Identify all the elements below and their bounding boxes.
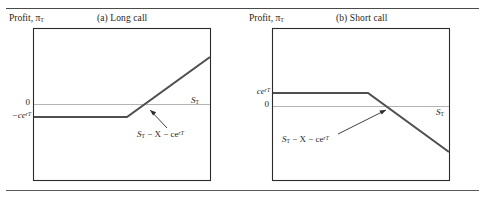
chart-svg-a bbox=[0, 0, 243, 202]
tick-zero-b: 0 bbox=[243, 99, 269, 109]
tick-intercept-b-text: ce bbox=[257, 86, 265, 96]
plot-box-b bbox=[273, 29, 450, 181]
figure-container: Profit, πT (a) Long call 0 −cerT ST ST −… bbox=[0, 0, 485, 202]
payoff-line-a bbox=[34, 57, 210, 117]
annotation-leader-b bbox=[338, 110, 386, 134]
annotation-a-sup: rT bbox=[179, 130, 184, 136]
tick-zero-a: 0 bbox=[4, 97, 30, 107]
tick-intercept-a-text: −ce bbox=[12, 110, 26, 120]
panel-short-call: Profit, πT (b) Short call cerT 0 ST ST −… bbox=[240, 0, 485, 202]
tick-intercept-a-sup: rT bbox=[26, 111, 31, 117]
x-axis-name-a-sub: T bbox=[196, 99, 199, 105]
annotation-a: ST − X − cerT bbox=[137, 129, 184, 139]
annotation-b-mid: − X − ce bbox=[290, 134, 324, 144]
annotation-a-mid: − X − ce bbox=[145, 129, 179, 139]
chart-svg-b bbox=[240, 0, 485, 202]
tick-intercept-b-sup: rT bbox=[265, 87, 270, 93]
panel-long-call: Profit, πT (a) Long call 0 −cerT ST ST −… bbox=[0, 0, 243, 202]
x-axis-name-b: ST bbox=[436, 107, 444, 117]
annotation-arrowhead-a bbox=[150, 110, 156, 116]
annotation-b-sup: rT bbox=[324, 135, 329, 141]
tick-intercept-b: cerT bbox=[241, 86, 270, 96]
tick-intercept-a: −cerT bbox=[0, 110, 31, 120]
annotation-arrowhead-b bbox=[379, 110, 386, 114]
annotation-b: ST − X − cerT bbox=[282, 134, 329, 144]
x-axis-name-a: ST bbox=[191, 95, 199, 105]
x-axis-name-b-sub: T bbox=[441, 111, 444, 117]
